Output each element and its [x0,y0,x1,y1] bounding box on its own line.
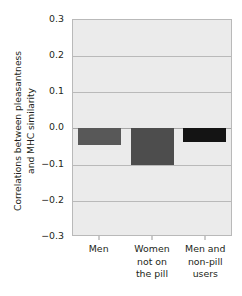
x-tick-mark [152,236,153,240]
gridline-0.2 [73,56,231,57]
y-tick-label: 0.0 [49,122,64,132]
y-tick-label: −0.2 [41,195,64,205]
x-tick-mark [98,236,99,240]
y-axis-title-line-1: Correlations between pleasantness [11,51,24,211]
plot-area [72,19,232,236]
y-axis-tick-labels: 0.3 0.2 0.1 0.0 −0.1 −0.2 −0.3 [30,19,68,236]
x-axis-tick-labels: Men Women not on the pill Men and non-pi… [72,243,232,293]
chart-figure: Correlations between pleasantness and MH… [0,0,242,296]
x-tick-label-line: non-pill [170,256,240,269]
y-tick-label: −0.1 [41,159,64,169]
bar-women-not-on-the-pill [131,128,174,166]
bar-men-and-non-pill-users [183,128,226,142]
y-tick-label: −0.3 [41,231,64,241]
gridline-0.1 [73,92,231,93]
x-tick-label-line: users [170,268,240,281]
x-tick-label-line: Men and [170,243,240,256]
x-axis-tick-marks [72,236,232,241]
x-tick-mark [205,236,206,240]
gridline--0.2 [73,201,231,202]
y-tick-label: 0.1 [49,86,64,96]
bar-men [78,128,121,146]
x-tick-label-men-and-non-pill-users: Men and non-pill users [170,243,240,281]
y-tick-label: 0.3 [49,14,64,24]
y-tick-label: 0.2 [49,50,64,60]
